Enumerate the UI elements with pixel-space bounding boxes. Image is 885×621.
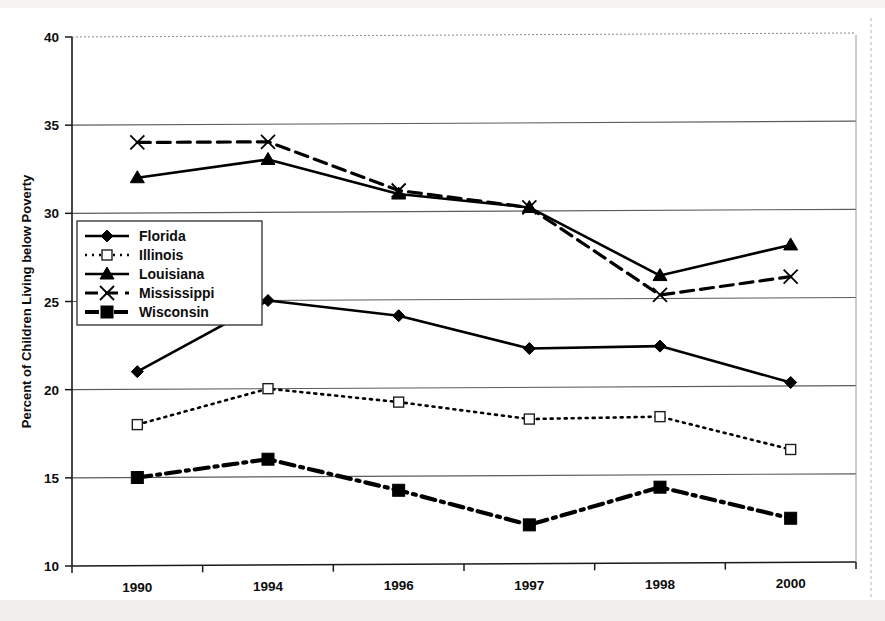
y-tick-label: 15 [44, 471, 60, 486]
marker-illinois [394, 397, 404, 407]
legend: FloridaIllinoisLouisianaMississippiWisco… [77, 221, 262, 325]
legend-label-louisiana: Louisiana [139, 266, 205, 282]
legend-label-wisconsin: Wisconsin [139, 304, 209, 320]
marker-wisconsin [131, 472, 143, 484]
x-tick-label: 1990 [122, 580, 152, 595]
x-tick-label: 1996 [384, 578, 415, 593]
scan-artifact-bottom [0, 600, 885, 621]
marker-illinois [655, 412, 665, 422]
y-tick-label: 30 [44, 206, 59, 221]
marker-illinois [102, 250, 112, 260]
y-tick-label: 35 [44, 118, 60, 133]
y-tick-label: 25 [44, 295, 60, 310]
chart-canvas: 10152025303540199019941996199719982000Pe… [0, 0, 885, 621]
marker-wisconsin [785, 512, 797, 524]
y-tick-label: 40 [44, 30, 59, 45]
marker-wisconsin [262, 453, 274, 465]
legend-label-florida: Florida [139, 228, 186, 244]
marker-illinois [786, 444, 796, 454]
x-tick-label: 1998 [645, 577, 676, 592]
poverty-line-chart: 10152025303540199019941996199719982000Pe… [0, 0, 885, 621]
y-axis-title: Percent of Children Living below Poverty [19, 174, 34, 428]
marker-illinois [132, 420, 142, 430]
scan-artifact-top [0, 0, 885, 8]
marker-wisconsin [393, 484, 405, 496]
y-tick-label: 10 [44, 559, 59, 574]
x-tick-label: 1994 [253, 579, 284, 594]
legend-label-mississippi: Mississippi [139, 285, 214, 301]
legend-item-wisconsin[interactable]: Wisconsin [85, 304, 209, 320]
marker-illinois [524, 414, 534, 424]
x-tick-label: 1997 [514, 578, 544, 593]
marker-wisconsin [654, 481, 666, 493]
legend-label-illinois: Illinois [139, 247, 184, 263]
marker-illinois [263, 384, 273, 394]
marker-wisconsin [523, 519, 535, 531]
y-tick-label: 20 [44, 383, 59, 398]
marker-wisconsin [101, 306, 113, 318]
x-tick-label: 2000 [776, 576, 806, 591]
